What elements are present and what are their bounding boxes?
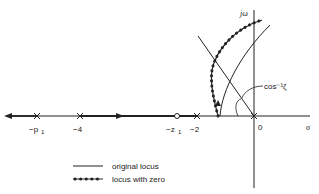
locus-arrow-icon xyxy=(215,100,221,106)
legend: original locus locus with zero xyxy=(73,162,165,184)
real-axis xyxy=(4,113,310,119)
label-p1-sub: 1 xyxy=(41,129,45,135)
label-z1-sub: 1 xyxy=(178,129,182,135)
legend-zero-label: locus with zero xyxy=(112,175,165,184)
left-arrow-icon xyxy=(4,113,12,119)
label-p1: −p xyxy=(29,125,39,134)
original-locus xyxy=(198,25,270,116)
root-locus-diagram: −p 1 −4 −z 1 −2 0 σ jω cos⁻¹ζ original l… xyxy=(0,0,319,194)
right-arrow-icon xyxy=(116,113,124,119)
label-z1: −z xyxy=(166,125,175,134)
label-m4: −4 xyxy=(73,125,83,134)
angle-label: cos⁻¹ζ xyxy=(264,82,287,91)
jomega-label: jω xyxy=(239,9,248,18)
zero-z1-icon xyxy=(175,114,180,119)
sigma-label: σ xyxy=(306,123,311,132)
label-origin: 0 xyxy=(258,123,263,132)
label-m2: −2 xyxy=(190,125,200,134)
angle-annotation xyxy=(236,86,263,116)
legend-original-label: original locus xyxy=(112,162,159,171)
